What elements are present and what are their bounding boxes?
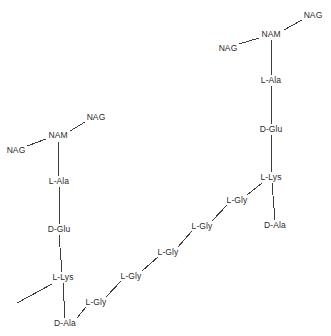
bond-line xyxy=(142,257,158,271)
node-label-nag: NAG xyxy=(218,43,239,53)
bond-line xyxy=(58,141,59,176)
node-label-l-gly: L-Gly xyxy=(191,221,214,231)
node-label-l-ala: L-Ala xyxy=(260,75,282,85)
bond-line xyxy=(27,139,46,146)
bond-line xyxy=(63,283,65,318)
bond-line xyxy=(106,281,121,297)
peptidoglycan-diagram: NAGNAMNAGL-AlaD-GluL-LysD-AlaL-GlyL-GlyL… xyxy=(0,0,331,336)
bond-line xyxy=(178,231,192,247)
node-label-nag: NAG xyxy=(86,112,107,122)
node-label-nag: NAG xyxy=(303,10,324,20)
bond-line xyxy=(17,284,52,303)
bond-line xyxy=(70,122,85,131)
bond-layer xyxy=(0,0,331,336)
node-label-nag: NAG xyxy=(6,145,27,155)
node-label-nam: NAM xyxy=(47,130,68,140)
bond-line xyxy=(272,183,275,220)
node-label-nam: NAM xyxy=(260,29,281,39)
node-label-d-ala: D-Ala xyxy=(263,220,287,230)
node-label-l-gly: L-Gly xyxy=(226,195,249,205)
bond-line xyxy=(212,205,227,221)
node-label-l-gly: L-Gly xyxy=(120,271,143,281)
node-label-l-ala: L-Ala xyxy=(48,176,70,186)
bond-line xyxy=(239,38,259,44)
node-label-d-ala: D-Ala xyxy=(53,318,77,328)
node-label-l-gly: L-Gly xyxy=(157,247,180,257)
bond-line xyxy=(59,235,62,272)
bond-line xyxy=(284,20,302,30)
node-label-l-gly: L-Gly xyxy=(85,297,108,307)
bond-line xyxy=(77,307,86,318)
node-label-l-lys: L-Lys xyxy=(52,272,75,282)
node-label-d-glu: D-Glu xyxy=(259,124,284,134)
bond-line xyxy=(247,183,262,195)
node-label-d-glu: D-Glu xyxy=(47,224,72,234)
node-label-l-lys: L-Lys xyxy=(260,172,283,182)
